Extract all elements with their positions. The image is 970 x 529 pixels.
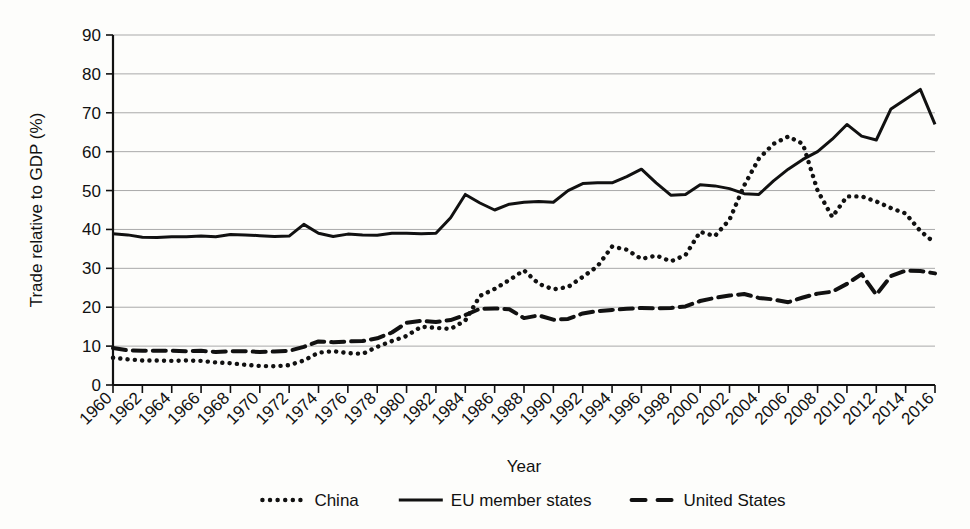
x-tick-label-2014: 2014 <box>868 388 908 428</box>
x-tick-label-1976: 1976 <box>311 388 351 428</box>
y-tick-label-80: 80 <box>82 65 101 84</box>
chart-legend: ChinaEU member statesUnited States <box>262 491 785 510</box>
x-tick-label-2012: 2012 <box>839 388 879 428</box>
legend-label-united-states: United States <box>684 491 786 510</box>
x-tick-label-2016: 2016 <box>898 388 938 428</box>
x-tick-label-2006: 2006 <box>751 388 791 428</box>
x-tick-label-2010: 2010 <box>810 388 850 428</box>
y-axis-title: Trade relative to GDP (%) <box>27 113 46 308</box>
x-tick-label-1966: 1966 <box>164 388 204 428</box>
series-line-china <box>113 137 935 367</box>
x-tick-label-1960: 1960 <box>76 388 116 428</box>
y-tick-label-60: 60 <box>82 143 101 162</box>
legend-label-china: China <box>314 491 359 510</box>
x-tick-label-1974: 1974 <box>281 388 321 428</box>
series-line-united-states <box>113 271 935 352</box>
x-tick-label-1988: 1988 <box>487 388 527 428</box>
x-tick-label-1972: 1972 <box>252 388 292 428</box>
x-tick-label-2008: 2008 <box>780 388 820 428</box>
chart-container: 0102030405060708090 19601962196419661968… <box>0 0 970 529</box>
x-tick-label-1994: 1994 <box>575 388 615 428</box>
x-tick-label-2000: 2000 <box>663 388 703 428</box>
y-axis-title-text: Trade relative to GDP (%) <box>27 113 46 308</box>
x-axis-title: Year <box>507 457 542 476</box>
x-tick-label-1964: 1964 <box>134 388 174 428</box>
x-axis-ticks: 1960196219641966196819701972197419761978… <box>76 385 938 429</box>
y-tick-label-30: 30 <box>82 259 101 278</box>
x-tick-label-1962: 1962 <box>105 388 145 428</box>
x-tick-label-1992: 1992 <box>545 388 585 428</box>
x-tick-label-1986: 1986 <box>457 388 497 428</box>
y-tick-label-50: 50 <box>82 182 101 201</box>
x-tick-label-1982: 1982 <box>399 388 439 428</box>
y-tick-label-90: 90 <box>82 26 101 45</box>
y-axis-ticks: 0102030405060708090 <box>82 26 113 395</box>
trade-to-gdp-line-chart: 0102030405060708090 19601962196419661968… <box>0 0 970 529</box>
grid-lines <box>113 35 935 346</box>
y-tick-label-40: 40 <box>82 220 101 239</box>
x-tick-label-1998: 1998 <box>633 388 673 428</box>
y-tick-label-70: 70 <box>82 104 101 123</box>
data-series <box>113 89 935 366</box>
y-tick-label-20: 20 <box>82 298 101 317</box>
y-tick-label-10: 10 <box>82 337 101 356</box>
axis-lines <box>113 35 935 385</box>
x-tick-label-2004: 2004 <box>722 388 762 428</box>
x-tick-label-1980: 1980 <box>369 388 409 428</box>
x-axis-title-text: Year <box>507 457 542 476</box>
x-tick-label-1996: 1996 <box>604 388 644 428</box>
x-tick-label-1978: 1978 <box>340 388 380 428</box>
series-line-eu-member-states <box>113 89 935 237</box>
x-tick-label-2002: 2002 <box>692 388 732 428</box>
x-tick-label-1970: 1970 <box>222 388 262 428</box>
legend-label-eu-member-states: EU member states <box>451 491 592 510</box>
x-tick-label-1990: 1990 <box>516 388 556 428</box>
x-tick-label-1984: 1984 <box>428 388 468 428</box>
x-tick-label-1968: 1968 <box>193 388 233 428</box>
